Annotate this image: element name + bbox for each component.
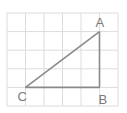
vertex-label-a: A — [96, 15, 105, 30]
triangle-grid-diagram: A B C — [0, 0, 127, 113]
vertex-label-b: B — [99, 92, 108, 107]
vertex-label-c: C — [18, 89, 27, 104]
